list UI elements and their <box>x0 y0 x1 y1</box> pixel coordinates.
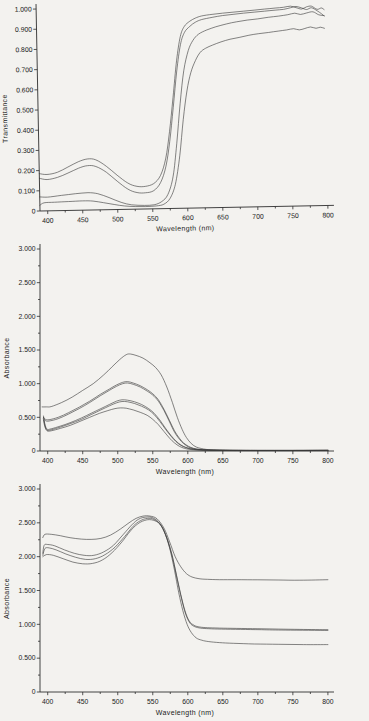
x-tick-label: 550 <box>147 457 159 464</box>
y-tick-label: 0.400 <box>17 127 34 134</box>
x-tick-label: 450 <box>77 698 89 705</box>
y-tick-label: 3.000 <box>18 245 35 252</box>
spectrum-curve-4 <box>37 27 328 209</box>
y-tick-label: 1.000 <box>18 621 35 628</box>
y-tick-label: 1.500 <box>18 346 35 353</box>
x-axis-title: Wavelength (nm) <box>156 709 214 717</box>
x-tick-label: 550 <box>147 698 159 705</box>
x-tick-label: 500 <box>112 698 124 705</box>
y-tick-label: 2.500 <box>18 519 35 526</box>
y-tick-label: 1.000 <box>18 380 35 387</box>
x-tick-label: 800 <box>322 698 334 705</box>
y-axis-title: Transmittance <box>1 94 9 143</box>
spectrum-curve-4 <box>44 400 328 451</box>
x-tick-label: 450 <box>77 457 89 464</box>
x-tick-label: 500 <box>112 215 124 222</box>
y-tick-label: 0.300 <box>17 147 34 154</box>
x-axis-title: Wavelength (nm) <box>156 468 214 476</box>
spectra-page: 00.1000.2000.3000.4000.5000.6000.7000.80… <box>0 0 369 721</box>
x-tick-label: 650 <box>217 698 229 705</box>
spectrum-curve-1 <box>36 6 327 189</box>
spectrum-curve-3 <box>43 518 328 630</box>
transmittance-spectra-chart: 00.1000.2000.3000.4000.5000.6000.7000.80… <box>0 0 369 240</box>
y-tick-label: 2.500 <box>18 279 35 286</box>
spectrum-curve-1 <box>43 516 328 580</box>
spectrum-curve-3 <box>36 12 328 208</box>
x-tick-label: 800 <box>322 211 334 218</box>
spectrum-curve-1 <box>42 354 328 450</box>
x-tick-label: 400 <box>42 457 54 464</box>
y-tick-label: 2.000 <box>18 553 35 560</box>
spectrum-curve-4 <box>43 520 328 645</box>
x-axis-title: Wavelength (nm) <box>156 224 214 233</box>
y-tick-label: 0.700 <box>16 66 33 73</box>
plot-area: 00.1000.2000.3000.4000.5000.6000.7000.80… <box>0 0 334 236</box>
spectrum-curve-5 <box>44 401 328 450</box>
y-tick-label: 0.500 <box>18 654 35 661</box>
x-tick-label: 550 <box>147 215 159 222</box>
y-tick-label: 0.900 <box>15 26 32 33</box>
y-tick-label: 0 <box>32 207 36 214</box>
x-tick-label: 600 <box>182 214 194 221</box>
absorbance-chart-2-canvas: 00.5001.0001.5002.0002.5003.000400450500… <box>0 480 369 721</box>
x-tick-label: 600 <box>182 698 194 705</box>
y-axis-title: Absorbance <box>3 578 10 619</box>
absorbance-spectra-chart-2: 00.5001.0001.5002.0002.5003.000400450500… <box>0 480 369 721</box>
spectrum-curve-2 <box>36 6 327 195</box>
y-tick-label: 0.800 <box>15 46 32 53</box>
y-tick-label: 1.000 <box>15 5 32 12</box>
x-tick-label: 750 <box>287 457 299 464</box>
y-tick-label: 1.500 <box>18 587 35 594</box>
y-tick-label: 0.500 <box>16 106 33 113</box>
plot-area: 00.5001.0001.5002.0002.5003.000400450500… <box>3 244 334 476</box>
y-tick-label: 0.100 <box>18 187 35 194</box>
y-axis-title: Absorbance <box>3 338 10 379</box>
y-tick-label: 3.000 <box>18 485 35 492</box>
x-tick-label: 650 <box>217 457 229 464</box>
x-tick-label: 750 <box>287 698 299 705</box>
y-tick-label: 2.000 <box>18 313 35 320</box>
x-tick-label: 700 <box>252 457 264 464</box>
x-tick-label: 700 <box>252 213 264 220</box>
x-tick-label: 450 <box>77 216 89 223</box>
transmittance-chart-canvas: 00.1000.2000.3000.4000.5000.6000.7000.80… <box>0 0 369 240</box>
axes-lines <box>40 484 334 692</box>
absorbance-chart-1-canvas: 00.5001.0001.5002.0002.5003.000400450500… <box>0 240 369 480</box>
x-tick-label: 750 <box>287 212 299 219</box>
x-tick-label: 400 <box>42 217 54 224</box>
x-tick-label: 800 <box>322 457 334 464</box>
x-tick-label: 700 <box>252 698 264 705</box>
y-tick-label: 0.500 <box>18 414 35 421</box>
y-tick-label: 0 <box>32 447 36 454</box>
plot-area: 00.5001.0001.5002.0002.5003.000400450500… <box>3 484 334 717</box>
y-tick-label: 0.200 <box>18 167 35 174</box>
y-tick-label: 0 <box>32 688 36 695</box>
y-tick-label: 0.600 <box>16 86 33 93</box>
x-tick-label: 600 <box>182 457 194 464</box>
x-tick-label: 650 <box>217 213 229 220</box>
x-tick-label: 500 <box>112 457 124 464</box>
absorbance-spectra-chart-1: 00.5001.0001.5002.0002.5003.000400450500… <box>0 240 369 480</box>
x-tick-label: 400 <box>42 698 54 705</box>
